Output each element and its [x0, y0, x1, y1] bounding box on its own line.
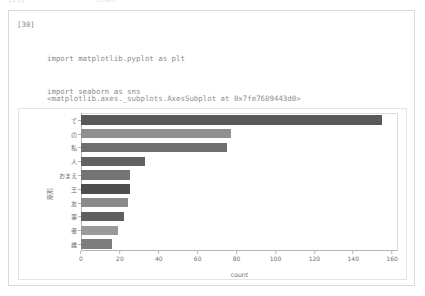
x-tick-mark [236, 251, 237, 254]
bar-row: 友 [81, 196, 398, 210]
bar-row: 誰 [81, 237, 398, 251]
previous-cell-fragment: [29] count [0, 0, 425, 8]
y-tick-label: おまえ [59, 171, 77, 180]
x-axis-label: count [81, 271, 398, 278]
plot-area: ての私人おまえ王友事者誰 [81, 113, 398, 251]
x-tick: 80 [233, 251, 241, 262]
bar-row: 人 [81, 154, 398, 168]
bar-row: 者 [81, 223, 398, 237]
x-tick-label: 80 [233, 255, 241, 262]
x-tick-label: 60 [194, 255, 202, 262]
x-tick-label: 120 [309, 255, 320, 262]
x-tick-mark [119, 251, 120, 254]
x-tick: 100 [270, 251, 281, 262]
bar [81, 143, 227, 152]
bar [81, 157, 145, 166]
x-tick: 60 [194, 251, 202, 262]
x-tick-label: 0 [79, 255, 83, 262]
matplotlib-figure: 原形 ての私人おまえ王友事者誰 020406080100120140160 co… [18, 108, 407, 280]
y-tick-label: 誰 [71, 240, 77, 249]
bar-row: 王 [81, 182, 398, 196]
x-tick-label: 140 [348, 255, 359, 262]
x-tick-mark [158, 251, 159, 254]
bar-series: ての私人おまえ王友事者誰 [81, 113, 398, 251]
x-tick-mark [197, 251, 198, 254]
bar [81, 239, 112, 248]
x-tick-label: 160 [386, 255, 397, 262]
code-line-1: import matplotlib.pyplot as plt [17, 53, 412, 64]
bar-row: の [81, 127, 398, 141]
x-tick-label: 100 [270, 255, 281, 262]
x-tick-mark [353, 251, 354, 254]
bar-row: 私 [81, 141, 398, 155]
bar-row: おまえ [81, 168, 398, 182]
execution-count: [30] [17, 19, 35, 30]
bar [81, 212, 124, 221]
bar-row: て [81, 113, 398, 127]
y-tick-label: 者 [71, 226, 77, 235]
y-axis-label: 原形 [45, 188, 54, 200]
y-tick-label: 王 [71, 184, 77, 193]
notebook-screenshot: [29] count [30] import matplotlib.pyplot… [0, 0, 425, 296]
x-tick-mark [314, 251, 315, 254]
bar [81, 226, 118, 235]
y-tick-label: 人 [71, 157, 77, 166]
x-tick: 40 [155, 251, 163, 262]
x-tick: 0 [79, 251, 83, 262]
x-tick: 20 [116, 251, 124, 262]
x-tick: 140 [348, 251, 359, 262]
y-tick-label: の [71, 129, 77, 138]
x-tick: 120 [309, 251, 320, 262]
previous-cell-prompt: [29] [8, 0, 25, 4]
bar-row: 事 [81, 210, 398, 224]
y-tick-label: て [71, 115, 77, 124]
x-tick-label: 40 [155, 255, 163, 262]
bar [81, 129, 231, 138]
notebook-cell[interactable]: [30] import matplotlib.pyplot as plt imp… [8, 10, 415, 286]
previous-cell-text: count [96, 0, 117, 4]
x-tick-mark [275, 251, 276, 254]
x-tick-mark [392, 251, 393, 254]
x-tick-mark [80, 251, 81, 254]
bar [81, 198, 128, 207]
bar [81, 184, 130, 193]
y-tick-label: 私 [71, 143, 77, 152]
bar [81, 115, 382, 124]
x-tick: 160 [386, 251, 397, 262]
bar [81, 170, 130, 179]
y-tick-label: 友 [71, 198, 77, 207]
x-tick-label: 20 [116, 255, 124, 262]
y-tick-label: 事 [71, 212, 77, 221]
cell-output-text: <matplotlib.axes._subplots.AxesSubplot a… [47, 93, 407, 104]
